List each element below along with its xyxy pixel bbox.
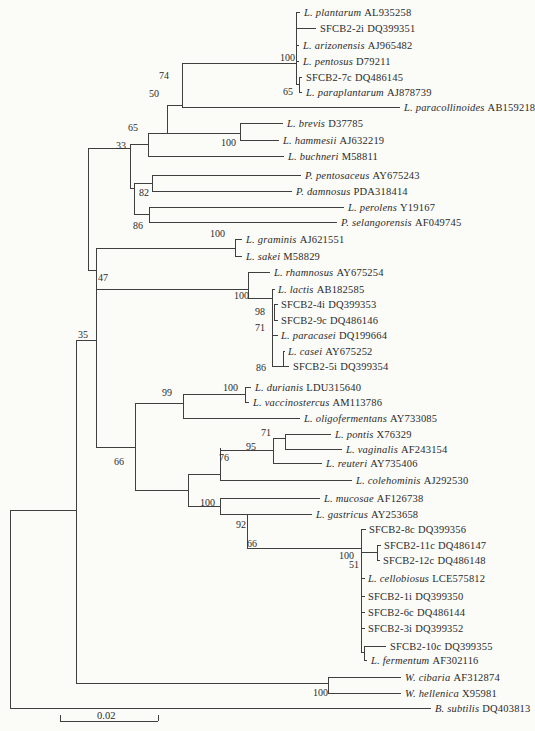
bootstrap-value: 74 — [159, 70, 169, 81]
accession-number: AY675254 — [336, 267, 383, 278]
taxon-label: L. brevisD37785 — [287, 118, 363, 129]
species-name: L. buchneri — [288, 151, 339, 162]
accession-number: AF126738 — [377, 493, 424, 504]
taxon-label: L. buchneriM58811 — [288, 151, 378, 162]
accession-number: AF243154 — [401, 444, 448, 455]
bootstrap-value: 51 — [349, 559, 359, 570]
species-name: L. pentosus — [303, 56, 353, 67]
species-name: L. paracollinoides — [404, 102, 485, 113]
accession-number: AY735406 — [370, 458, 417, 469]
species-name: P. selangorensis — [341, 217, 412, 228]
taxon-label: SFCB2-10cDQ399355 — [390, 641, 493, 652]
species-name: L. gastricus — [316, 509, 368, 520]
taxon-label: W. cibariaAF312874 — [405, 672, 500, 683]
species-name: P. damnosus — [296, 186, 351, 197]
bootstrap-value: 71 — [255, 322, 265, 333]
taxon-label: L. pentosusD79211 — [303, 56, 391, 67]
species-name: L. hammesii — [283, 135, 337, 146]
accession-number: DQ486144 — [417, 607, 465, 618]
strain-name: SFCB2-1i — [368, 591, 412, 602]
bootstrap-value: 66 — [247, 538, 257, 549]
accession-number: LCE575812 — [432, 573, 485, 584]
bootstrap-value: 100 — [210, 228, 225, 239]
accession-number: AF302116 — [432, 655, 478, 666]
bootstrap-value: 50 — [149, 88, 159, 99]
species-name: L. plantarum — [304, 7, 361, 18]
strain-name: SFCB2-9c — [281, 315, 327, 326]
bootstrap-value: 100 — [313, 687, 328, 698]
taxon-label: SFCB2-2iDQ399351 — [320, 23, 415, 34]
taxon-label: L. rhamnosusAY675254 — [274, 267, 384, 278]
bootstrap-value: 65 — [283, 86, 293, 97]
accession-number: DQ399352 — [415, 623, 463, 634]
taxon-label: SFCB2-6cDQ486144 — [368, 607, 465, 618]
taxon-label: L. paraplantarumAJ878739 — [306, 87, 432, 98]
taxon-label: L. oligofermentansAY733085 — [304, 413, 437, 424]
species-name: L. fermentum — [371, 655, 429, 666]
accession-number: DQ486146 — [330, 315, 378, 326]
species-name: L. vaginalis — [346, 444, 398, 455]
accession-number: AB159218 — [488, 102, 535, 113]
species-name: L. rhamnosus — [274, 267, 333, 278]
accession-number: AY675243 — [372, 170, 419, 181]
taxon-label: SFCB2-7cDQ486145 — [306, 72, 403, 83]
taxon-label: L. paracollinoidesAB159218 — [404, 102, 535, 113]
taxon-label: P. damnosusPDA318414 — [296, 186, 408, 197]
accession-number: M58811 — [342, 151, 378, 162]
taxon-label: L. lactisAB182585 — [278, 284, 364, 295]
accession-number: AL935258 — [364, 7, 411, 18]
taxon-label: SFCB2-1iDQ399350 — [368, 591, 463, 602]
strain-name: SFCB2-11c — [384, 540, 435, 551]
taxon-label: L. paracaseiDQ199664 — [281, 330, 387, 341]
species-name: L. durianis — [255, 382, 303, 393]
taxon-label: SFCB2-4iDQ399353 — [281, 299, 376, 310]
bootstrap-value: 99 — [162, 387, 172, 398]
taxon-label: L. pontisX76329 — [335, 429, 412, 440]
bootstrap-value: 100 — [234, 290, 249, 301]
accession-number: AM113786 — [333, 397, 383, 408]
accession-number: DQ399354 — [340, 361, 388, 372]
accession-number: DQ399356 — [418, 524, 466, 535]
taxon-label: L. arizonensisAJ965482 — [303, 40, 413, 51]
bootstrap-value: 100 — [280, 52, 295, 63]
bootstrap-value: 33 — [116, 140, 126, 151]
accession-number: D37785 — [328, 118, 363, 129]
taxon-label: L. durianisLDU315640 — [255, 382, 361, 393]
species-name: L. casei — [288, 346, 322, 357]
taxon-label: SFCB2-3iDQ399352 — [368, 623, 463, 634]
species-name: B. subtilis — [435, 703, 479, 714]
species-name: L. reuteri — [326, 458, 367, 469]
taxon-label: L. perolensY19167 — [348, 202, 435, 213]
strain-name: SFCB2-12c — [383, 555, 434, 566]
strain-name: SFCB2-3i — [368, 623, 412, 634]
strain-name: SFCB2-4i — [281, 299, 325, 310]
taxon-label: L. sakeiM58829 — [246, 251, 320, 262]
bootstrap-value: 47 — [98, 272, 108, 283]
accession-number: DQ486145 — [355, 72, 403, 83]
strain-name: SFCB2-10c — [390, 641, 441, 652]
species-name: L. paraplantarum — [306, 87, 384, 98]
taxon-label: P. pentosaceusAY675243 — [305, 170, 420, 181]
accession-number: PDA318414 — [354, 186, 408, 197]
species-name: L. colehominis — [356, 475, 421, 486]
species-name: L. sakei — [246, 251, 280, 262]
accession-number: DQ486147 — [438, 540, 486, 551]
accession-number: DQ399353 — [328, 299, 376, 310]
taxon-label: L. mucosaeAF126738 — [324, 493, 423, 504]
taxon-label: B. subtilisDQ403813 — [435, 703, 530, 714]
accession-number: DQ399351 — [367, 23, 415, 34]
taxon-label: L. colehominisAJ292530 — [356, 475, 468, 486]
taxon-label: SFCB2-8cDQ399356 — [369, 524, 466, 535]
bootstrap-value: 82 — [139, 187, 149, 198]
taxon-label: L. graminisAJ621551 — [246, 234, 344, 245]
bootstrap-value: 65 — [128, 122, 138, 133]
accession-number: DQ403813 — [482, 703, 530, 714]
bootstrap-value: 86 — [256, 362, 266, 373]
species-name: L. perolens — [348, 202, 397, 213]
species-name: L. vaccinostercus — [253, 397, 330, 408]
accession-number: DQ399350 — [415, 591, 463, 602]
accession-number: M58829 — [283, 251, 320, 262]
species-name: L. pontis — [335, 429, 374, 440]
taxon-label: L. plantarumAL935258 — [304, 7, 411, 18]
